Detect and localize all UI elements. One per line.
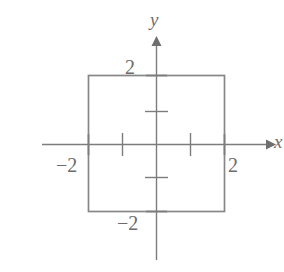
graph-canvas bbox=[0, 0, 284, 272]
y-axis-arrowhead bbox=[152, 36, 162, 46]
coordinate-plane-figure: y x 2 −2 −2 2 bbox=[0, 0, 284, 272]
x-tick-label-positive-two: 2 bbox=[228, 155, 238, 175]
y-tick-label-negative-two: −2 bbox=[117, 213, 138, 233]
x-axis-label: x bbox=[274, 132, 282, 151]
y-axis-label: y bbox=[150, 10, 158, 29]
x-tick-label-negative-two: −2 bbox=[56, 155, 77, 175]
y-tick-label-positive-two: 2 bbox=[125, 57, 135, 77]
